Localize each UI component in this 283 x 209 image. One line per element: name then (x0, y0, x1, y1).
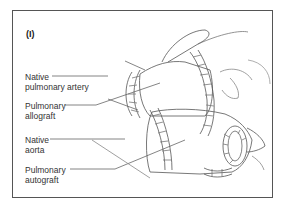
pa-edge-line (125, 61, 145, 70)
heart-illustration (0, 0, 283, 209)
pa-lower-line (108, 99, 138, 110)
native-aorta-line (92, 140, 150, 178)
leader-autograft-diag (115, 140, 185, 169)
